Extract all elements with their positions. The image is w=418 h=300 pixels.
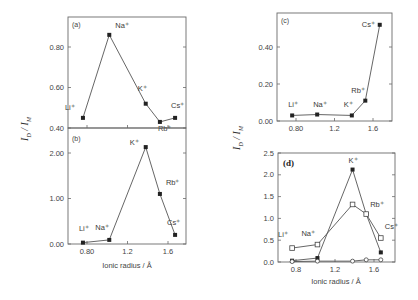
panel-a-series: Li⁺Na⁺K⁺Rb⁺Cs⁺ <box>65 21 184 133</box>
data-point <box>173 116 177 120</box>
ion-label: Rb⁺ <box>370 200 384 209</box>
y-tick-label: 0.00 <box>49 240 64 249</box>
y-tick-label: 0.5 <box>264 236 274 245</box>
data-point <box>290 246 295 251</box>
data-point <box>290 260 294 264</box>
y-tick-label: 0.20 <box>258 80 273 89</box>
series-line <box>83 35 175 122</box>
ion-label: Na⁺ <box>115 21 129 30</box>
panel-c-ticks: 0.000.200.400.801.21.6 <box>258 43 392 134</box>
ion-label: Cs⁺ <box>385 222 398 231</box>
panel-c-label: (c) <box>281 17 289 25</box>
data-point <box>81 241 85 245</box>
data-point <box>378 23 382 27</box>
data-point <box>315 242 320 247</box>
ion-label: Rb⁺ <box>351 86 365 95</box>
panel-b-ticks: 0.001.002.000.801.21.6 <box>49 149 186 257</box>
data-point <box>351 259 355 263</box>
y-axis-label-left: ID / IM <box>19 116 32 142</box>
panel-d-label: (d) <box>283 158 294 168</box>
panel-c-series: Li⁺Na⁺K⁺Rb⁺Cs⁺ <box>288 20 382 118</box>
x-tick-label: 1.6 <box>369 265 379 274</box>
data-point <box>144 102 148 106</box>
panel-c: (c) 0.000.200.400.801.21.6 Li⁺Na⁺K⁺Rb⁺Cs… <box>258 13 392 133</box>
y-tick-label: 2.00 <box>49 149 64 158</box>
x-tick-label: 1.2 <box>122 247 132 256</box>
figure-canvas: (a) 0.400.600.80 Li⁺Na⁺K⁺Rb⁺Cs⁺ (b) 0.00… <box>0 0 418 300</box>
svg-text:ID / IM: ID / IM <box>19 116 32 142</box>
x-tick-label: 1.6 <box>163 247 173 256</box>
data-point <box>364 212 369 217</box>
panel-a-frame <box>68 17 186 128</box>
data-point <box>107 238 111 242</box>
x-tick-label: 1.2 <box>330 265 340 274</box>
x-axis-label-right: Ionic radius / Å <box>311 277 361 286</box>
ion-label: Li⁺ <box>278 230 288 239</box>
ion-label: K⁺ <box>349 156 358 165</box>
panel-d-series: Li⁺Na⁺K⁺Rb⁺Cs⁺ <box>278 156 398 264</box>
ion-label: Na⁺ <box>95 223 109 232</box>
ion-label: Cs⁺ <box>362 20 375 29</box>
data-point <box>173 233 177 237</box>
y-tick-label: 2.0 <box>264 170 274 179</box>
ion-label: K⁺ <box>344 100 353 109</box>
y-tick-label: 0.40 <box>49 124 64 133</box>
ion-label: Li⁺ <box>79 224 89 233</box>
x-tick-label: 0.8 <box>291 265 301 274</box>
y-tick-label: 0.80 <box>49 43 64 52</box>
ion-label: Cs⁺ <box>171 101 184 110</box>
data-point <box>144 145 148 149</box>
data-point <box>379 258 383 262</box>
data-point <box>350 113 354 117</box>
ion-label: Cs⁺ <box>167 218 180 227</box>
y-tick-label: 2.5 <box>264 149 274 158</box>
panel-b-series: Li⁺Na⁺K⁺Rb⁺Cs⁺ <box>79 138 180 245</box>
ion-label: K⁺ <box>138 84 147 93</box>
ion-label: Li⁺ <box>65 103 75 112</box>
x-tick-label: 0.80 <box>80 247 95 256</box>
data-point <box>290 113 294 117</box>
data-point <box>364 258 368 262</box>
panel-d: (d) 0.00.51.01.52.02.50.81.21.6 Li⁺Na⁺K⁺… <box>264 149 398 287</box>
y-tick-label: 0.40 <box>258 43 273 52</box>
data-point <box>363 99 367 103</box>
panel-a-label: (a) <box>72 21 81 29</box>
y-tick-label: 1.0 <box>264 214 274 223</box>
x-tick-label: 1.6 <box>368 124 378 133</box>
ion-label: Na⁺ <box>301 229 315 238</box>
ion-label: Rb⁺ <box>166 178 180 187</box>
data-point <box>315 259 319 263</box>
ion-label: K⁺ <box>130 138 139 147</box>
data-point <box>379 250 383 254</box>
data-point <box>351 168 355 172</box>
data-point <box>379 236 384 241</box>
y-tick-label: 0.60 <box>49 83 64 92</box>
y-tick-label: 0.00 <box>258 117 273 126</box>
svg-text:ID / IM: ID / IM <box>231 125 244 151</box>
x-axis-label-left: Ionic radius / Å <box>102 261 152 270</box>
y-tick-label: 1.00 <box>49 194 64 203</box>
x-tick-label: 0.80 <box>289 124 304 133</box>
y-tick-label: 0.0 <box>264 258 274 267</box>
data-point <box>315 113 319 117</box>
panel-b-label: (b) <box>72 135 81 143</box>
panel-a-y-ticks: 0.400.600.80 <box>49 43 186 133</box>
data-point <box>350 202 355 207</box>
ion-label: Na⁺ <box>313 100 327 109</box>
y-axis-label-right: ID / IM <box>231 125 244 151</box>
panel-b: (b) 0.001.002.000.801.21.6 Li⁺Na⁺K⁺Rb⁺Cs… <box>49 128 186 270</box>
x-tick-label: 1.2 <box>329 124 339 133</box>
data-point <box>107 33 111 37</box>
panel-a: (a) 0.400.600.80 Li⁺Na⁺K⁺Rb⁺Cs⁺ <box>49 17 186 133</box>
data-point <box>158 192 162 196</box>
data-point <box>81 116 85 120</box>
ion-label: Li⁺ <box>288 100 298 109</box>
y-tick-label: 1.5 <box>264 192 274 201</box>
